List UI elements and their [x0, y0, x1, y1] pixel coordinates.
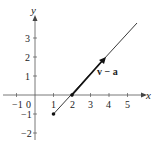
y-tick-label: −2	[21, 128, 32, 139]
x-axis-label: x	[145, 89, 151, 101]
vector-label: v − a	[97, 66, 118, 77]
point	[70, 93, 74, 97]
x-tick-label: 1	[51, 99, 56, 110]
y-tick-label: −1	[21, 109, 32, 120]
coordinate-diagram: −1 0 1 2 3 4 5 3 2 1 −1 −2 x y v − a	[0, 0, 157, 145]
point	[52, 112, 56, 116]
x-tick-label: 4	[106, 99, 111, 110]
y-tick-label: 3	[25, 33, 30, 44]
y-axis-label: y	[30, 4, 36, 16]
x-tick-label: 3	[88, 99, 93, 110]
x-tick-label: 2	[70, 99, 75, 110]
y-tick-label: 2	[25, 52, 30, 63]
x-tick-label: 5	[125, 99, 130, 110]
y-tick-label: 1	[25, 71, 30, 82]
